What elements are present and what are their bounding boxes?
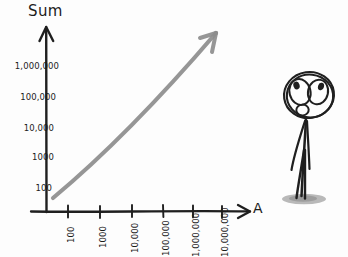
- figure-eyes: [287, 77, 331, 107]
- figure-mouth: [296, 104, 309, 116]
- x-axis-tick-label: 10,000,000: [220, 207, 230, 257]
- x-axis-tick-label: 1000: [98, 226, 108, 248]
- x-axis-tick-label: 100: [66, 226, 76, 243]
- y-axis-tick-label: 1000: [0, 152, 54, 162]
- x-axis-title: A: [253, 200, 263, 216]
- x-axis-tick-label: 100,000: [161, 220, 171, 256]
- x-axis-tick-label: 10,000: [130, 223, 140, 253]
- x-axis-tick-label: 1,000,000: [191, 213, 201, 257]
- y-axis-title: Sum: [28, 2, 63, 20]
- y-axis-tick-label: 100: [0, 183, 52, 193]
- figure-shadow-core: [289, 195, 317, 201]
- figure-right-pupil: [317, 82, 325, 91]
- sketch-figure: Sum A 1,000,000 100,000 10,000 1000 100 …: [0, 0, 348, 257]
- y-axis-tick-label: 100,000: [0, 92, 56, 102]
- trend-arrow: [53, 33, 216, 198]
- y-axis-tick-label: 10,000: [0, 123, 54, 133]
- x-axis: [31, 205, 250, 218]
- y-axis-tick-label: 1,000,000: [0, 61, 59, 71]
- shocked-stick-figure: [281, 69, 337, 204]
- figure-right-arm: [307, 121, 310, 169]
- figure-left-eye: [287, 77, 314, 107]
